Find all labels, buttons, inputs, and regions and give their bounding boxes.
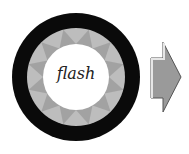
center-label: flash	[44, 64, 108, 83]
arrow-right-icon	[151, 42, 181, 112]
